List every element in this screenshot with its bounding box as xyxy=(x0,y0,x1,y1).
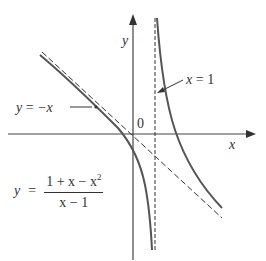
slant-asymptote-var: y xyxy=(16,100,22,115)
vertical-asymptote-eq: = xyxy=(196,72,204,87)
function-numerator: 1 + x − x2 xyxy=(44,172,103,193)
function-eq: = xyxy=(28,183,36,199)
vertical-label-pointer xyxy=(157,80,183,93)
function-denominator: x − 1 xyxy=(59,193,88,211)
vertical-asymptote-label: x = 1 xyxy=(186,73,214,87)
slant-label-pointer xyxy=(70,105,98,108)
vertical-asymptote-var: x xyxy=(186,72,192,87)
slant-asymptote-val: −x xyxy=(37,100,53,115)
function-numerator-exponent: 2 xyxy=(97,172,102,182)
slant-asymptote-eq: = xyxy=(26,100,34,115)
y-axis-label: y xyxy=(122,34,128,48)
y-axis-arrow-icon xyxy=(129,14,137,25)
function-fraction: 1 + x − x2 x − 1 xyxy=(44,172,103,211)
x-axis xyxy=(8,130,256,138)
y-axis xyxy=(129,14,137,260)
x-axis-arrow-icon xyxy=(246,130,256,138)
function-lhs: y xyxy=(14,183,20,199)
function-numerator-text: 1 + x − x xyxy=(46,174,97,189)
curve-left-branch xyxy=(40,55,152,250)
function-equation: y = 1 + x − x2 x − 1 xyxy=(14,172,103,211)
x-axis-label: x xyxy=(229,138,235,152)
function-plot xyxy=(0,0,266,261)
curve-right-branch xyxy=(157,18,222,208)
vertical-asymptote-val: 1 xyxy=(207,72,214,87)
slant-asymptote-label: y = −x xyxy=(16,101,53,115)
origin-label: 0 xyxy=(137,117,144,131)
